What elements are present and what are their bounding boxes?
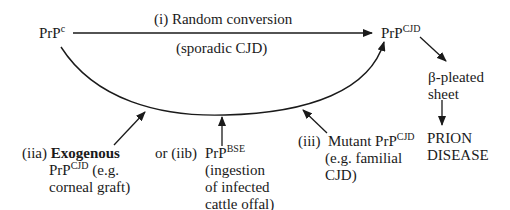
route-iii-text: Mutant PrP: [328, 133, 397, 149]
route-iii-number: (iii): [298, 133, 321, 149]
route-iib-line1: PrPBSE: [205, 145, 245, 162]
route-iii-line2: (e.g. familial: [325, 150, 402, 167]
route-iib-line3: of infected: [205, 179, 270, 196]
route-iii-line3: CJD): [325, 167, 357, 184]
beta-sheet-line2: sheet: [428, 86, 459, 103]
random-conversion-label: (i) Random conversion: [154, 11, 292, 28]
route-iib-sup: BSE: [227, 143, 245, 154]
prp-c-base: PrP: [39, 25, 61, 41]
prp-cjd-base: PrP: [381, 25, 403, 41]
route-iii-line1: (iii) Mutant PrPCJD: [298, 133, 415, 150]
route-iii-sup: CJD: [397, 131, 415, 142]
route-iib-line4: cattle offal): [205, 196, 274, 210]
route-iia-base: PrP: [49, 162, 71, 178]
route-iib-base: PrP: [205, 145, 227, 161]
route-iia-number: (iia): [22, 145, 47, 161]
prp-c-sup: c: [61, 23, 65, 34]
route-iib-prefix: or (iib): [155, 145, 197, 162]
route-iia-bold: Exogenous: [51, 145, 120, 161]
sporadic-cjd-label: (sporadic CJD): [176, 40, 267, 57]
route-iia-sup: CJD: [71, 160, 89, 171]
beta-sheet-line1: β-pleated: [428, 69, 484, 86]
route-iib-line2: (ingestion: [205, 162, 265, 179]
prion-disease-line2: DISEASE: [427, 147, 489, 164]
mutant-arrow: [303, 110, 327, 133]
route-iia-line3: corneal graft): [49, 179, 130, 196]
route-iia-eg: (e.g.: [88, 162, 118, 178]
prp-cjd-node: PrPCJD: [381, 25, 420, 42]
prion-disease-line1: PRION: [427, 130, 472, 147]
prp-c-node: PrPc: [39, 25, 65, 42]
exogenous-arrow: [114, 112, 145, 145]
prp-cjd-sup: CJD: [403, 23, 421, 34]
route-iia-line2: PrPCJD (e.g.: [49, 162, 119, 179]
beta-sheet-arrow: [420, 37, 446, 61]
